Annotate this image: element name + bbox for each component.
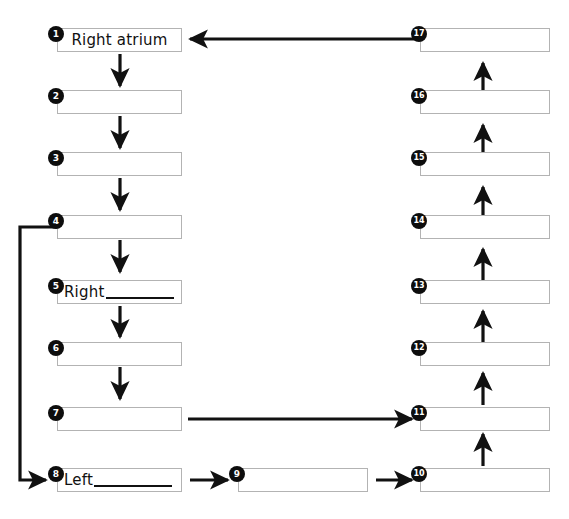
node-box-10[interactable] <box>420 468 550 492</box>
node-box-12[interactable] <box>420 342 550 366</box>
node-box-8[interactable]: Left <box>57 468 182 492</box>
node-marker-11: 11 <box>411 405 427 421</box>
node-box-5[interactable]: Right <box>57 280 182 304</box>
node-marker-2: 2 <box>48 88 64 104</box>
node-box-16[interactable] <box>420 90 550 114</box>
node-box-11[interactable] <box>420 407 550 431</box>
node-box-14[interactable] <box>420 215 550 239</box>
node-marker-13: 13 <box>411 278 427 294</box>
diagram-connectors <box>0 0 569 519</box>
node-marker-14: 14 <box>411 213 427 229</box>
node-label-1: Right atrium <box>71 31 167 49</box>
node-marker-16: 16 <box>411 88 427 104</box>
node-marker-8: 8 <box>48 466 64 482</box>
node-box-17[interactable] <box>420 28 550 52</box>
node-marker-15: 15 <box>411 150 427 166</box>
node-marker-6: 6 <box>48 340 64 356</box>
node-box-13[interactable] <box>420 280 550 304</box>
node-marker-3: 3 <box>48 150 64 166</box>
node-box-4[interactable] <box>57 215 182 239</box>
node-box-2[interactable] <box>57 90 182 114</box>
node-box-6[interactable] <box>57 342 182 366</box>
node-marker-10: 10 <box>411 466 427 482</box>
node-marker-12: 12 <box>411 340 427 356</box>
flow-diagram: Right atrium 1 2 3 4 Right 5 6 7 Left 8 … <box>0 0 569 519</box>
node-marker-1: 1 <box>48 26 64 42</box>
blank-answer-line-5[interactable] <box>106 286 174 299</box>
node-marker-17: 17 <box>411 26 427 42</box>
node-label-8: Left <box>64 471 93 489</box>
blank-answer-line-8[interactable] <box>94 474 172 487</box>
node-box-3[interactable] <box>57 152 182 176</box>
node-box-15[interactable] <box>420 152 550 176</box>
node-box-1[interactable]: Right atrium <box>57 28 182 52</box>
node-marker-9: 9 <box>229 466 245 482</box>
node-box-9[interactable] <box>238 468 368 492</box>
node-marker-7: 7 <box>48 405 64 421</box>
node-marker-4: 4 <box>48 213 64 229</box>
node-box-7[interactable] <box>57 407 182 431</box>
node-marker-5: 5 <box>48 278 64 294</box>
node-label-5: Right <box>64 283 105 301</box>
